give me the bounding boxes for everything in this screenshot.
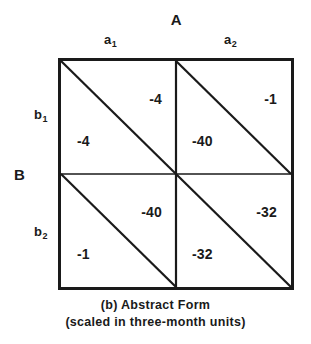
figure-caption: (b) Abstract Form (scaled in three-month… bbox=[0, 297, 311, 331]
column-strategy-sub-a2: 2 bbox=[231, 39, 237, 49]
column-strategy-label-a1: a1 bbox=[104, 33, 117, 46]
payoff-value-b1-a1-upper: -4 bbox=[149, 92, 162, 106]
payoff-cell-b1-a1: -4 -4 bbox=[61, 61, 176, 174]
figure-caption-line-2: (scaled in three-month units) bbox=[0, 314, 311, 331]
payoff-cell-b2-a2: -32 -32 bbox=[176, 174, 291, 287]
payoff-value-b1-a1-lower: -4 bbox=[77, 134, 90, 148]
row-strategy-label-b2: b2 bbox=[34, 225, 47, 238]
column-strategy-sub-a1: 1 bbox=[111, 39, 117, 49]
payoff-value-b2-a1-upper: -40 bbox=[141, 205, 162, 219]
column-strategy-label-a2: a2 bbox=[224, 33, 237, 46]
row-strategy-label-b1: b1 bbox=[34, 108, 47, 121]
row-player-label: B bbox=[14, 167, 25, 182]
row-strategy-base-b2: b bbox=[34, 224, 42, 239]
payoff-cell-b2-a1: -40 -1 bbox=[61, 174, 176, 287]
payoff-matrix-grid: -4 -4 -1 -40 -40 -1 -32 -32 bbox=[58, 58, 294, 290]
payoff-cell-b1-a2: -1 -40 bbox=[176, 61, 291, 174]
column-player-label: A bbox=[21, 12, 311, 27]
row-strategy-sub-b2: 2 bbox=[42, 231, 48, 241]
payoff-matrix-figure: A B a1 a2 b1 b2 bbox=[0, 0, 311, 344]
payoff-value-b2-a2-lower: -32 bbox=[192, 247, 213, 261]
row-strategy-base-b1: b bbox=[34, 107, 42, 122]
figure-caption-line-1: (b) Abstract Form bbox=[0, 297, 311, 314]
payoff-matrix-inner: -4 -4 -1 -40 -40 -1 -32 -32 bbox=[61, 61, 291, 287]
row-strategy-sub-b1: 1 bbox=[42, 114, 48, 124]
payoff-value-b2-a1-lower: -1 bbox=[77, 247, 90, 261]
payoff-value-b1-a2-lower: -40 bbox=[192, 134, 213, 148]
payoff-value-b2-a2-upper: -32 bbox=[256, 205, 277, 219]
payoff-value-b1-a2-upper: -1 bbox=[264, 92, 277, 106]
